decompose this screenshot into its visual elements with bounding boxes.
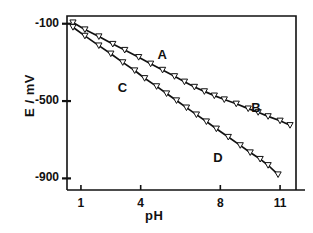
data-point-marker [181, 79, 187, 85]
data-point-marker [122, 47, 128, 53]
series-annotation-b: B [251, 100, 260, 115]
x-tick-label-0: 1 [66, 196, 96, 210]
series-annotation-d: D [213, 150, 222, 165]
x-tick-label-2: 8 [205, 196, 235, 210]
y-tick-label-0: -100 [5, 16, 59, 30]
data-series-group [70, 20, 293, 178]
y-tick-label-2: -900 [5, 170, 59, 184]
data-point-marker [287, 123, 293, 129]
x-tick-label-3: 11 [265, 196, 295, 210]
series-annotation-a: A [158, 47, 167, 62]
y-tick-label-1: -500 [5, 93, 59, 107]
x-tick-label-1: 4 [126, 196, 156, 210]
data-point-marker [148, 61, 154, 67]
chart-figure: E / mV pH -100-500-900 14811 ABCD [0, 0, 313, 233]
series-annotation-c: C [118, 80, 127, 95]
x-axis-title: pH [145, 208, 163, 223]
data-point-marker [275, 172, 281, 178]
plot-box [67, 16, 296, 190]
